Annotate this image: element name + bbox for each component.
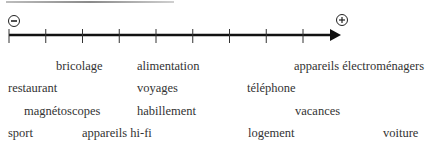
word-label: bricolage [56, 59, 103, 73]
word-label: voiture [383, 126, 418, 140]
word-label: appareils hi-fi [82, 126, 152, 140]
word-label: habillement [137, 104, 196, 118]
word-label: téléphone [247, 81, 296, 95]
minus-icon [9, 16, 20, 27]
word-label: restaurant [8, 81, 57, 95]
word-label: vacances [295, 104, 340, 118]
word-label: sport [8, 126, 33, 140]
word-label: voyages [137, 81, 178, 95]
scale-axis [0, 0, 431, 50]
word-label: appareils électroménagers [294, 59, 424, 73]
word-label: logement [248, 126, 295, 140]
word-label: magnétoscopes [24, 104, 100, 118]
word-label: alimentation [137, 59, 199, 73]
arrow-head-icon [330, 29, 341, 41]
plus-icon [337, 15, 348, 26]
